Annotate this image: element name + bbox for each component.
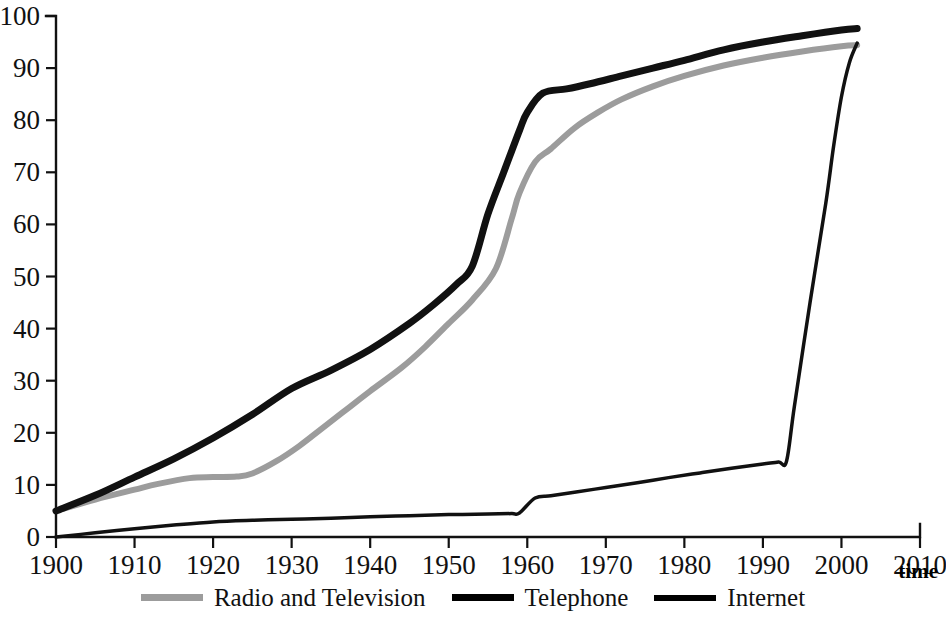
x-axis-tick-label: 1930 [265, 550, 319, 580]
x-axis-tick-label: 1950 [422, 550, 476, 580]
x-axis-tick-label: 1910 [108, 550, 162, 580]
legend-label: Radio and Television [214, 585, 426, 610]
y-axis-tick-label: 100 [0, 1, 40, 31]
x-axis-tick-label: 1960 [500, 550, 554, 580]
x-axis-title: time [898, 559, 938, 583]
x-axis-tick-label: 1980 [657, 550, 711, 580]
y-axis-tick-label: 80 [13, 105, 40, 135]
y-axis-tick-label: 60 [13, 209, 40, 239]
legend-item-telephone[interactable]: Telephone [452, 585, 629, 610]
series-line-internet [56, 43, 857, 537]
x-axis-tick-label: 1970 [579, 550, 633, 580]
line-chart: 0102030405060708090100 19001910192019301… [0, 0, 946, 619]
legend-item-radio-and-television[interactable]: Radio and Television [141, 585, 426, 610]
y-axis-tick-label: 90 [13, 53, 40, 83]
x-axis-tick-label: 2000 [814, 550, 868, 580]
y-axis-tick-label: 0 [27, 522, 41, 552]
series-line-telephone [56, 29, 857, 511]
x-axis-tick-label: 1940 [343, 550, 397, 580]
chart-legend: Radio and Television Telephone Internet [0, 585, 946, 610]
legend-item-internet[interactable]: Internet [654, 585, 805, 610]
legend-label: Telephone [525, 585, 629, 610]
y-axis-tick-label: 40 [13, 314, 40, 344]
y-axis-tick-group: 0102030405060708090100 [0, 1, 56, 552]
x-axis-tick-label: 1900 [29, 550, 83, 580]
x-axis-line [56, 524, 920, 537]
legend-swatch-icon [141, 594, 203, 601]
y-axis-tick-label: 30 [13, 366, 40, 396]
chart-canvas: 0102030405060708090100 19001910192019301… [0, 0, 946, 619]
series-line-radio-and-television [56, 45, 857, 511]
legend-label: Internet [727, 585, 805, 610]
series-group [56, 29, 857, 538]
y-axis-tick-label: 50 [13, 262, 40, 292]
x-axis-tick-label: 1990 [736, 550, 790, 580]
y-axis-tick-label: 20 [13, 418, 40, 448]
legend-swatch-icon [654, 595, 716, 601]
legend-swatch-icon [452, 594, 514, 601]
y-axis-tick-label: 70 [13, 157, 40, 187]
x-axis-tick-label: 1920 [186, 550, 240, 580]
x-axis-tick-group: 1900191019201930194019501960197019801990… [29, 537, 946, 580]
y-axis-tick-label: 10 [13, 470, 40, 500]
